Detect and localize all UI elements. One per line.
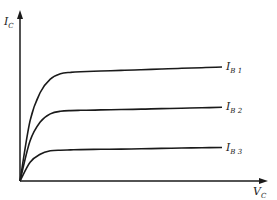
curve-i-b3 (20, 148, 222, 182)
curve-i-b1 (20, 67, 222, 181)
series-label-i-b3: IB 3 (225, 141, 243, 156)
y-axis-arrow-icon (17, 10, 23, 19)
x-axis-label: VC (253, 185, 267, 200)
x-axis-arrow-icon (259, 178, 268, 184)
series-label-i-b1: IB 1 (225, 60, 242, 75)
curve-i-b2 (20, 107, 222, 181)
y-axis-label: IC (3, 15, 14, 30)
series-label-i-b2: IB 2 (225, 100, 243, 115)
characteristic-curves-diagram: IC VC IB 1IB 2IB 3 (0, 0, 277, 200)
